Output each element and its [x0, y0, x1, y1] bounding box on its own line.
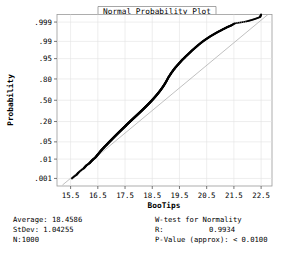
y-axis-title: Probability — [6, 74, 15, 126]
y-tick-label: .50 — [39, 96, 52, 105]
x-tick-label: 16.5 — [89, 191, 107, 200]
stat-r-label: R: — [155, 225, 164, 234]
normal-probability-plot-figure: Normal Probability Plot .999.99.95.80.50… — [0, 0, 292, 254]
y-tick-label: .01 — [39, 155, 52, 164]
y-tick-label: .80 — [39, 75, 52, 84]
y-tick-label: .05 — [39, 137, 52, 146]
y-tick-label: .99 — [39, 37, 52, 46]
stat-average: Average: 18.4586 — [13, 215, 82, 224]
stat-n: N:1000 — [13, 235, 39, 244]
stat-wtest-title: W-test for Normality — [155, 215, 242, 224]
y-tick-label: .999 — [34, 18, 52, 27]
x-tick-label: 22.5 — [252, 191, 270, 200]
x-tick-label: 20.5 — [198, 191, 216, 200]
stat-stdev: StDev: 1.04255 — [13, 225, 74, 234]
x-axis-title: BooTips — [148, 201, 181, 210]
stat-pvalue: P-Value (approx): < 0.0100 — [155, 235, 268, 244]
chart-canvas: Normal Probability Plot .999.99.95.80.50… — [0, 0, 292, 254]
x-tick-label: 15.5 — [62, 191, 80, 200]
x-tick-label: 21.5 — [225, 191, 243, 200]
y-tick-label: .001 — [34, 174, 52, 183]
y-axis: .999.99.95.80.50.20.05.01.001 — [34, 18, 57, 183]
y-tick-label: .95 — [39, 54, 52, 63]
x-axis: 15.516.517.518.519.520.521.522.5 — [62, 186, 270, 200]
x-tick-label: 19.5 — [171, 191, 189, 200]
x-tick-label: 17.5 — [116, 191, 134, 200]
x-tick-label: 18.5 — [143, 191, 161, 200]
y-tick-label: .20 — [39, 117, 52, 126]
stat-r-value: 0.9934 — [209, 225, 235, 234]
